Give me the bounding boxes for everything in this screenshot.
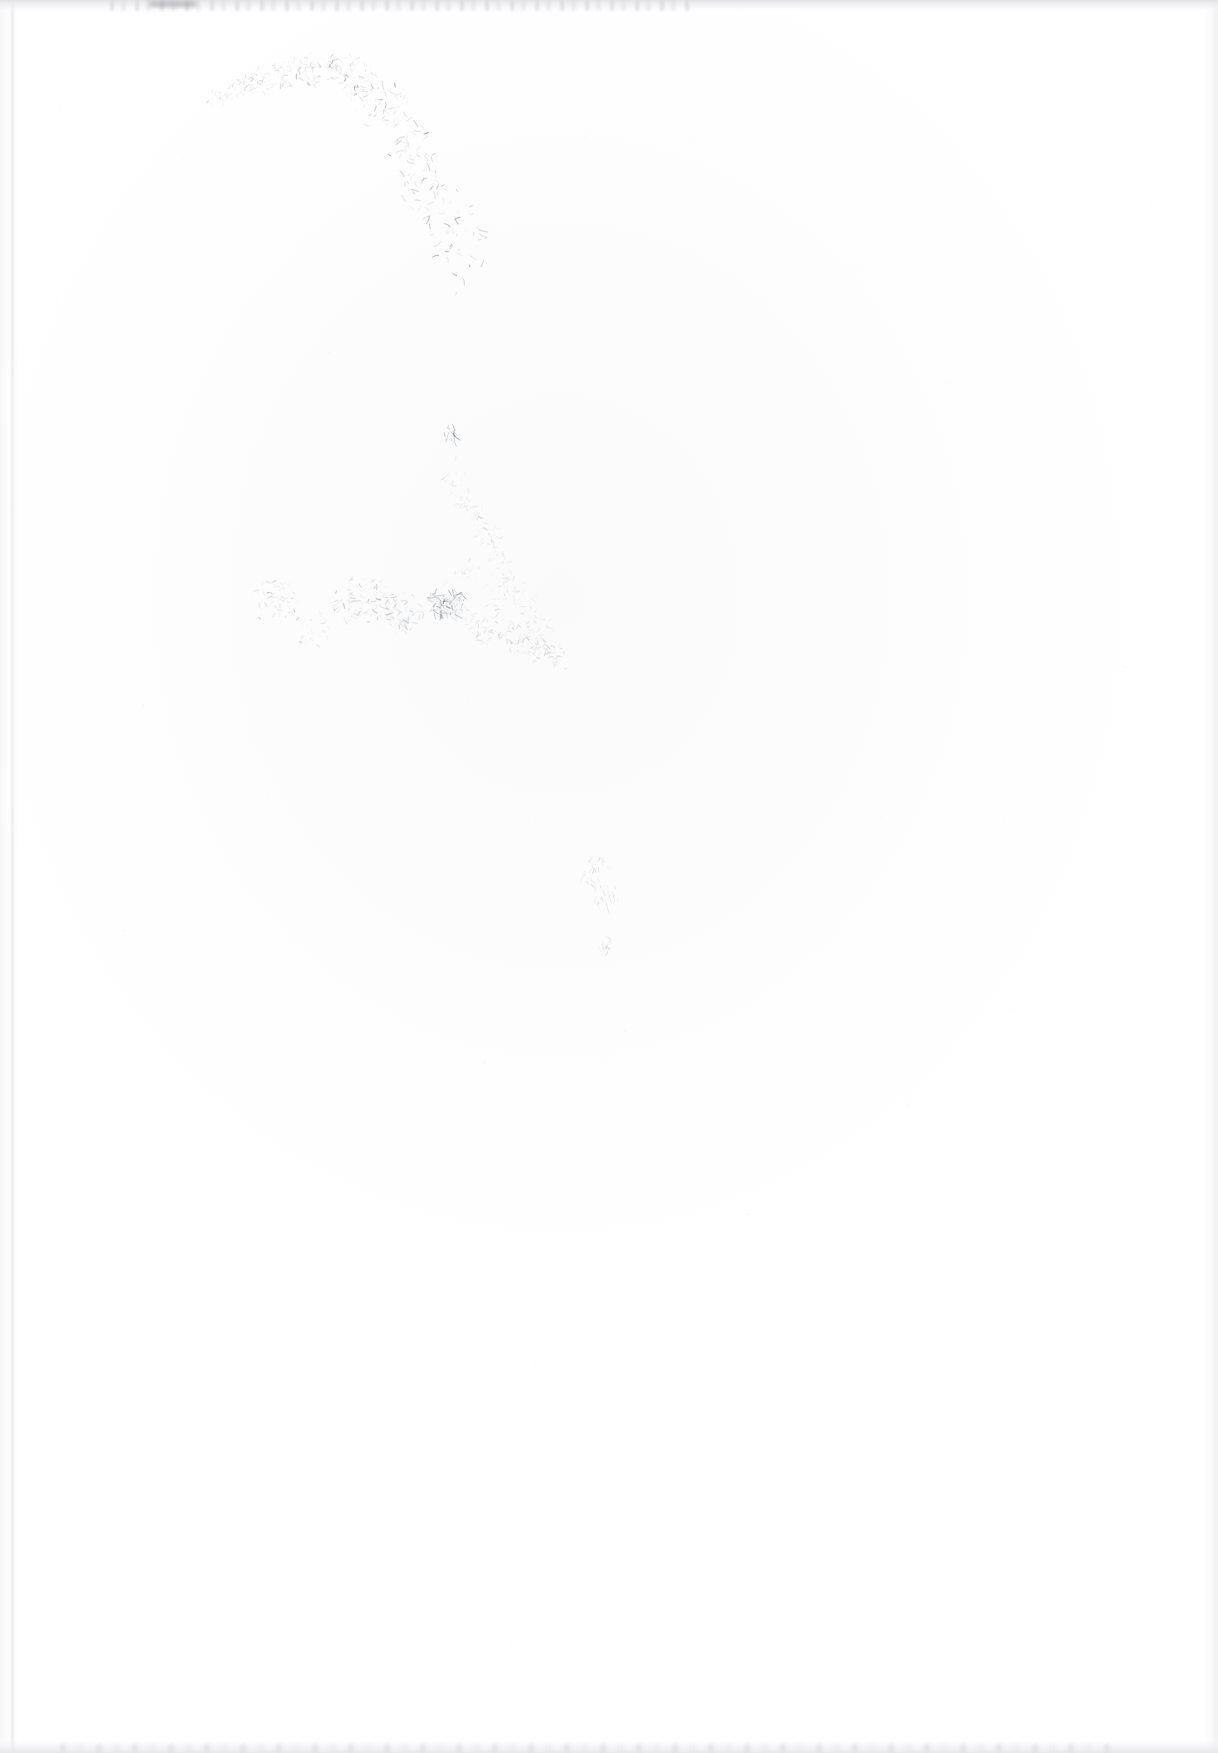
scan-edge-left	[9, 0, 17, 1753]
scan-edge-left-outer	[0, 0, 10, 1753]
scan-edge-top-smudge	[150, 1, 196, 7]
scanned-page	[0, 0, 1218, 1753]
scan-edge-right	[1204, 0, 1218, 1753]
arc-mark-cluster	[195, 60, 475, 260]
lower-right-cluster	[575, 840, 645, 970]
scan-edge-bottom-mottle	[60, 1744, 1110, 1753]
scan-edge-top-mottle	[110, 0, 690, 11]
mark-regions	[0, 0, 1218, 1753]
scan-edge-top	[0, 0, 1218, 13]
faint-marks-layer	[0, 0, 1218, 1753]
diagonal-trail	[430, 415, 570, 665]
paper-texture	[0, 0, 1218, 1753]
scan-edge-bottom	[0, 1737, 1218, 1753]
mid-scatter-band	[230, 555, 560, 665]
